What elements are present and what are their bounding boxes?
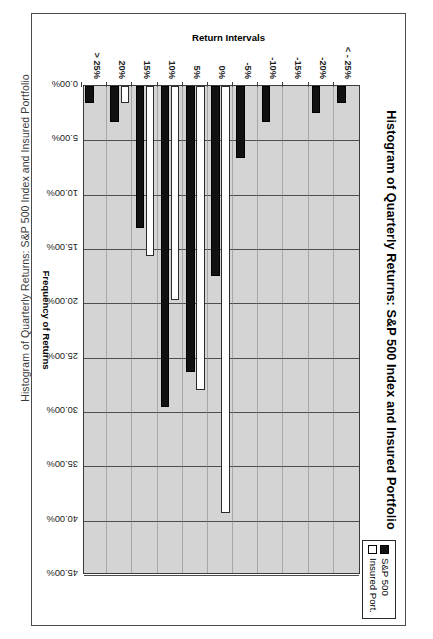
- bar-group: [207, 86, 232, 573]
- value-tick-label: 25.00%: [22, 350, 78, 360]
- bar-sp500: [160, 86, 169, 407]
- bar-group: [82, 86, 107, 573]
- category-tick-label: 0%: [217, 15, 227, 79]
- chart-frame: Histogram of Quarterly Returns: S&P 500 …: [31, 13, 406, 626]
- bar-sp500: [85, 86, 94, 103]
- bar-sp500: [311, 86, 320, 113]
- bar-sp500: [337, 86, 346, 103]
- value-tick-label: 35.00%: [22, 459, 78, 469]
- gridline: [84, 575, 359, 576]
- category-tick-label: 15%: [141, 15, 151, 79]
- bar-sp500: [236, 86, 245, 158]
- category-tick-label: 5%: [192, 15, 202, 79]
- value-tick-label: 20.00%: [22, 296, 78, 306]
- category-tick-label: -15%: [293, 15, 303, 79]
- legend-label-insured: Insured Port.: [367, 558, 379, 613]
- bar-group: [157, 86, 182, 573]
- value-tick-label: 15.00%: [22, 242, 78, 252]
- chart-legend: S&P 500 Insured Port.: [362, 540, 396, 619]
- value-tick-label: 10.00%: [22, 187, 78, 197]
- category-tickmark: [81, 82, 82, 87]
- legend-label-sp500: S&P 500: [379, 558, 391, 596]
- chart-rotated-canvas: Histogram of Quarterly Returns: S&P 500 …: [34, 15, 404, 625]
- legend-swatch-icon-sp500: [380, 545, 389, 554]
- bar-group: [333, 86, 358, 573]
- value-tick-label: 40.00%: [22, 513, 78, 523]
- bar-group: [107, 86, 132, 573]
- value-tick-label: 5.00%: [22, 133, 78, 143]
- bar-insured-port: [170, 86, 179, 300]
- legend-item-insured: Insured Port.: [367, 545, 379, 613]
- category-tick-label: -20%: [318, 15, 328, 79]
- plot-area: [83, 85, 360, 574]
- bar-group: [283, 86, 308, 573]
- page-caption: Histogram of Quarterly Returns: S&P 500 …: [19, 38, 31, 438]
- value-tick-label: 0.00%: [22, 79, 78, 89]
- category-tick-label: < - 25%: [343, 15, 353, 79]
- chart-title: Histogram of Quarterly Returns: S&P 500 …: [384, 15, 398, 625]
- bar-group: [258, 86, 283, 573]
- legend-swatch-icon-insured: [368, 545, 377, 554]
- bar-insured-port: [221, 86, 230, 513]
- category-tick-label: > 25%: [91, 15, 101, 79]
- value-axis-title: Frequency of Returns: [41, 15, 52, 625]
- bar-insured-port: [145, 86, 154, 256]
- category-tick-label: -5%: [242, 15, 252, 79]
- bar-insured-port: [120, 86, 129, 103]
- bar-sp500: [110, 86, 119, 122]
- value-tick-label: 30.00%: [22, 405, 78, 415]
- bar-group: [182, 86, 207, 573]
- category-tick-label: 10%: [167, 15, 177, 79]
- bar-sp500: [211, 86, 220, 276]
- bar-group: [132, 86, 157, 573]
- bar-group: [233, 86, 258, 573]
- bar-sp500: [261, 86, 270, 122]
- bar-group: [308, 86, 333, 573]
- bar-sp500: [135, 86, 144, 228]
- bar-sp500: [186, 86, 195, 372]
- category-tick-label: 20%: [116, 15, 126, 79]
- legend-item-sp500: S&P 500: [379, 545, 391, 613]
- bar-insured-port: [196, 86, 205, 390]
- category-tick-label: -10%: [267, 15, 277, 79]
- value-tick-label: 45.00%: [22, 568, 78, 578]
